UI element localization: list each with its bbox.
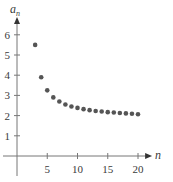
data-points — [33, 43, 140, 117]
y-tick-label: 1 — [5, 130, 11, 142]
data-point — [69, 104, 74, 109]
data-point — [105, 110, 110, 115]
data-point — [87, 108, 92, 113]
x-tick-label: 5 — [45, 163, 51, 175]
data-point — [118, 111, 123, 116]
x-tick-label: 20 — [133, 163, 145, 175]
data-point — [63, 102, 68, 107]
x-tick-label: 15 — [102, 163, 114, 175]
data-point — [99, 109, 104, 114]
y-axis-label: an — [10, 2, 20, 18]
y-tick-label: 2 — [5, 110, 11, 122]
y-axis-arrow-icon — [14, 17, 20, 24]
data-point — [33, 43, 38, 48]
data-point — [45, 88, 50, 93]
scatter-chart: 5101520123456ann — [0, 0, 173, 182]
data-point — [51, 95, 56, 100]
data-point — [124, 111, 129, 116]
x-axis-arrow-icon — [145, 153, 152, 159]
x-axis-label: n — [155, 148, 161, 162]
data-point — [75, 106, 80, 111]
x-tick-label: 10 — [72, 163, 84, 175]
y-tick-label: 5 — [5, 49, 11, 61]
data-point — [81, 107, 86, 112]
data-point — [130, 111, 135, 116]
data-point — [136, 112, 141, 117]
data-point — [57, 99, 62, 104]
axes: 5101520123456ann — [3, 2, 161, 176]
y-tick-label: 6 — [5, 29, 11, 41]
y-tick-label: 4 — [5, 69, 11, 81]
data-point — [39, 75, 44, 80]
data-point — [112, 110, 117, 115]
y-tick-label: 3 — [5, 89, 11, 101]
data-point — [93, 109, 98, 114]
